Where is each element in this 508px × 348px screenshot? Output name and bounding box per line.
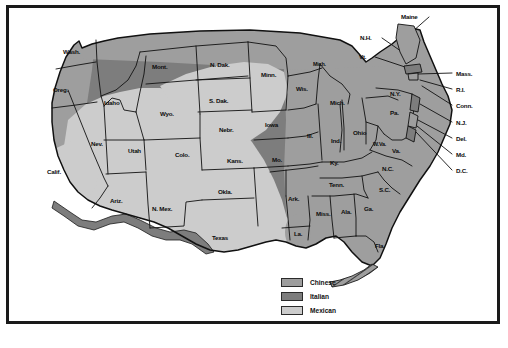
- state-label-minn: Minn.: [261, 72, 276, 78]
- state-label-wva: W.Va.: [373, 142, 386, 147]
- callout-label-ri: R.I.: [456, 87, 465, 93]
- state-label-utah: Utah: [128, 148, 141, 154]
- state-label-mont: Mont.: [152, 64, 168, 70]
- state-label-fla: Fla.: [375, 243, 385, 249]
- state-label-nc: N.C.: [382, 166, 394, 172]
- state-label-wis: Wis.: [296, 86, 308, 92]
- legend-label-italian: Italian: [310, 293, 329, 300]
- state-label-kans: Kans.: [227, 158, 243, 164]
- callout-label-maine: Maine: [401, 14, 418, 20]
- state-label-ariz: Ariz.: [110, 198, 122, 204]
- state-label-nebr: Nebr.: [219, 127, 233, 133]
- state-label-oreg: Oreg.: [53, 87, 68, 93]
- state-label-pa: Pa.: [390, 110, 399, 116]
- map-legend: ChineseItalianMexican: [281, 277, 361, 319]
- state-label-ala: Ala.: [341, 209, 352, 215]
- state-label-nmex: N. Mex.: [152, 206, 172, 212]
- legend-row-italian: Italian: [281, 291, 361, 302]
- state-label-tenn: Tenn.: [329, 182, 344, 188]
- state-label-ga: Ga.: [364, 206, 373, 212]
- state-label-ny: N.Y.: [390, 91, 401, 97]
- callout-label-mass: Mass.: [456, 71, 472, 77]
- state-label-calif: Calif.: [47, 169, 61, 175]
- state-label-idaho: Idaho: [104, 100, 120, 106]
- callout-label-dc: D.C.: [456, 168, 468, 174]
- state-label-ark: Ark.: [288, 196, 299, 202]
- legend-label-chinese: Chinese: [310, 279, 336, 286]
- state-label-nev: Nev.: [91, 141, 103, 147]
- state-label-sc: S.C.: [379, 187, 390, 193]
- legend-row-mexican: Mexican: [281, 305, 361, 316]
- state-label-ind: Ind.: [331, 138, 341, 144]
- legend-swatch-chinese: [281, 278, 303, 287]
- state-label-sdak: S. Dak.: [209, 98, 228, 104]
- callout-label-del: Del.: [456, 136, 467, 142]
- state-label-texas: Texas: [212, 235, 228, 241]
- callout-label-conn: Conn.: [456, 103, 473, 109]
- legend-swatch-italian: [281, 292, 303, 301]
- state-label-michlp: Mich.: [330, 100, 345, 106]
- callout-label-vt: Vt.: [359, 54, 366, 60]
- legend-label-mexican: Mexican: [310, 307, 336, 314]
- callout-label-nj: N.J.: [456, 120, 467, 126]
- state-label-mo: Mo.: [272, 157, 282, 163]
- callout-label-md: Md.: [456, 152, 466, 158]
- state-label-va: Va.: [392, 148, 400, 154]
- state-label-iowa: Iowa: [265, 122, 278, 128]
- legend-swatch-mexican: [281, 306, 303, 315]
- state-label-la: La.: [294, 231, 302, 237]
- callout-label-nh: N.H.: [360, 35, 372, 41]
- state-label-colo: Colo.: [175, 152, 189, 158]
- state-label-okla: Okla.: [218, 189, 232, 195]
- state-label-wyo: Wyo.: [160, 111, 174, 117]
- state-label-ohio: Ohio: [353, 130, 366, 136]
- state-label-ndak: N. Dak.: [210, 62, 230, 68]
- map-screenshot: Wash.Oreg.IdahoMont.N. Dak.S. Dak.Wyo.Ne…: [0, 0, 508, 348]
- legend-row-chinese: Chinese: [281, 277, 361, 288]
- state-label-michup: Mich.: [313, 62, 326, 67]
- state-label-miss: Miss.: [316, 211, 330, 217]
- state-label-wash: Wash.: [63, 49, 80, 55]
- state-label-ill: Ill.: [307, 133, 313, 139]
- state-label-ky: Ky.: [330, 160, 339, 166]
